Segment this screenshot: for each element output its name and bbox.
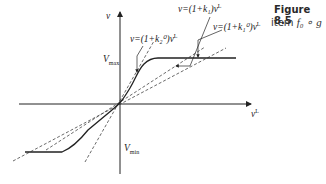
annotation-k1: v=(1+k₁)vL (178, 3, 222, 14)
figure-subtitle: item f₀ ∘ g (271, 16, 322, 29)
x-axis-label: vL (251, 108, 259, 119)
vmin-label: Vmin (124, 143, 139, 155)
annotation-k1-0: v=(1+k₁⁰)vL (213, 21, 261, 32)
annotation-k2-0: v=(1+k₂⁰)vL (130, 33, 178, 44)
dashed-line-k1 (46, 47, 205, 150)
saturation-curve (25, 58, 236, 152)
y-axis-label: v (106, 11, 110, 21)
vmax-label: Vmax (103, 54, 119, 66)
leader-k1-0 (198, 30, 222, 57)
